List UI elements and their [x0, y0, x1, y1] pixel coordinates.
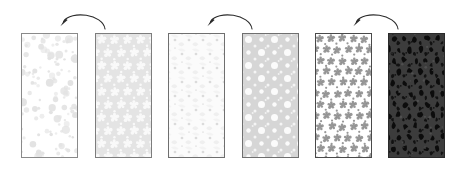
panel-2-texture — [95, 33, 152, 158]
panel-1-texture — [21, 33, 78, 158]
figure-canvas — [0, 0, 463, 174]
panel-5 — [315, 33, 372, 158]
panel-5-texture — [315, 33, 372, 158]
arrow-1 — [57, 8, 109, 32]
panel-2 — [95, 33, 152, 158]
panel-1 — [21, 33, 78, 158]
curved-arrow-icon — [57, 8, 109, 32]
panel-3-texture — [168, 33, 225, 158]
arrow-2 — [204, 8, 256, 32]
panel-3 — [168, 33, 225, 158]
panel-4-texture — [242, 33, 299, 158]
curved-arrow-icon — [350, 8, 402, 32]
panel-6 — [388, 33, 445, 158]
panel-4 — [242, 33, 299, 158]
panel-6-texture — [388, 33, 445, 158]
arrow-3 — [350, 8, 402, 32]
curved-arrow-icon — [204, 8, 256, 32]
